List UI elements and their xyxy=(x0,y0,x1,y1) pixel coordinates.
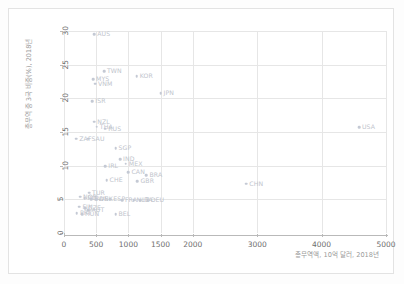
data-point-label: KOR xyxy=(140,73,153,79)
data-point xyxy=(127,171,130,174)
data-point xyxy=(159,92,162,95)
gridline-vertical xyxy=(386,31,387,233)
data-point xyxy=(95,198,98,201)
data-point-label: MEX xyxy=(129,161,143,167)
x-tick-mark xyxy=(193,234,194,237)
data-point-label: CAN xyxy=(131,169,144,175)
gridline-horizontal xyxy=(64,98,386,99)
data-point xyxy=(104,127,107,130)
x-tick-label: 500 xyxy=(89,241,103,249)
x-tick-mark xyxy=(257,234,258,237)
data-point xyxy=(114,147,117,150)
y-tick-label: 5 xyxy=(57,197,65,202)
data-point xyxy=(90,198,93,201)
data-point xyxy=(105,179,108,182)
x-tick-mark xyxy=(96,234,97,237)
x-tick-mark xyxy=(128,234,129,237)
data-point xyxy=(146,199,149,202)
data-point xyxy=(132,199,135,202)
data-point xyxy=(245,183,248,186)
data-point-label: FRA xyxy=(125,197,137,203)
data-point xyxy=(121,199,124,202)
data-point xyxy=(109,198,112,201)
data-point xyxy=(75,137,78,140)
data-point xyxy=(104,165,107,168)
data-point-label: HUN xyxy=(85,211,99,217)
data-point-label: JPN xyxy=(164,90,175,96)
gridline-horizontal xyxy=(64,132,386,133)
data-point xyxy=(81,213,84,216)
data-point-label: SGP xyxy=(119,145,132,151)
data-point xyxy=(83,197,86,200)
y-tick-label: 15 xyxy=(62,127,70,137)
data-point xyxy=(92,78,95,81)
data-point-label: ESP xyxy=(113,196,125,202)
x-tick-mark xyxy=(386,234,387,237)
data-point-label: ISR xyxy=(95,98,105,104)
x-tick-label: 5000 xyxy=(376,241,395,249)
data-point xyxy=(87,137,90,140)
data-point-label: BEL xyxy=(119,211,131,217)
y-tick-label: 0 xyxy=(57,230,65,235)
x-tick-label: 2000 xyxy=(183,241,202,249)
data-point xyxy=(78,205,81,208)
data-point xyxy=(139,199,142,202)
data-point xyxy=(96,125,99,128)
data-point-label: GBR xyxy=(140,178,154,184)
gridline-horizontal xyxy=(64,65,386,66)
data-point xyxy=(94,82,97,85)
data-point xyxy=(93,33,96,36)
y-axis-title: 총무역 중 3국 비중(%), 2018년 xyxy=(23,31,33,233)
x-tick-label: 1000 xyxy=(119,241,138,249)
y-tick-label: 30 xyxy=(62,26,70,36)
x-tick-mark xyxy=(322,234,323,237)
y-tick-label: 10 xyxy=(62,161,70,171)
chart-screenshot: 총무역 중 3국 비중(%), 2018년 AUSTWNKORMYSVNMJPN… xyxy=(0,0,404,284)
data-point-label: CHN xyxy=(249,181,263,187)
x-tick-mark xyxy=(161,234,162,237)
data-point xyxy=(125,162,128,165)
data-point xyxy=(114,213,117,216)
data-point xyxy=(119,158,122,161)
data-point-label: CHE xyxy=(110,177,123,183)
data-point-label: DEU xyxy=(151,197,165,203)
gridline-horizontal xyxy=(64,31,386,32)
data-point xyxy=(79,195,82,198)
data-point-label: SAU xyxy=(91,136,104,142)
y-tick-label: 25 xyxy=(62,60,70,70)
data-point-label: RUS xyxy=(108,126,121,132)
data-point xyxy=(135,75,138,78)
figure-frame: 총무역 중 3국 비중(%), 2018년 AUSTWNKORMYSVNMJPN… xyxy=(8,8,394,274)
data-point xyxy=(93,121,96,124)
x-axis-spine xyxy=(64,235,388,236)
data-point-label: TWN xyxy=(107,68,122,74)
data-point-label: VNM xyxy=(98,80,113,86)
data-point-label: USA xyxy=(362,124,375,130)
data-point-label: IRL xyxy=(108,163,118,169)
data-point xyxy=(145,174,148,177)
x-tick-label: 4000 xyxy=(312,241,331,249)
y-axis-title-text: 총무역 중 3국 비중(%), 2018년 xyxy=(23,39,33,130)
data-point xyxy=(358,126,361,129)
data-point xyxy=(76,212,79,215)
data-point xyxy=(103,70,106,73)
x-tick-label: 3000 xyxy=(248,241,267,249)
y-tick-label: 20 xyxy=(62,93,70,103)
x-tick-label: 1500 xyxy=(151,241,170,249)
x-axis-title: 총무역액, 10억 달러, 2018년 xyxy=(295,249,379,259)
data-point-label: AUS xyxy=(97,31,110,37)
data-point xyxy=(91,100,94,103)
plot-area: AUSTWNKORMYSVNMJPNISRNZLTHARUSUSAZAFSAUS… xyxy=(64,31,386,233)
data-point xyxy=(136,180,139,183)
x-tick-label: 0 xyxy=(62,241,67,249)
